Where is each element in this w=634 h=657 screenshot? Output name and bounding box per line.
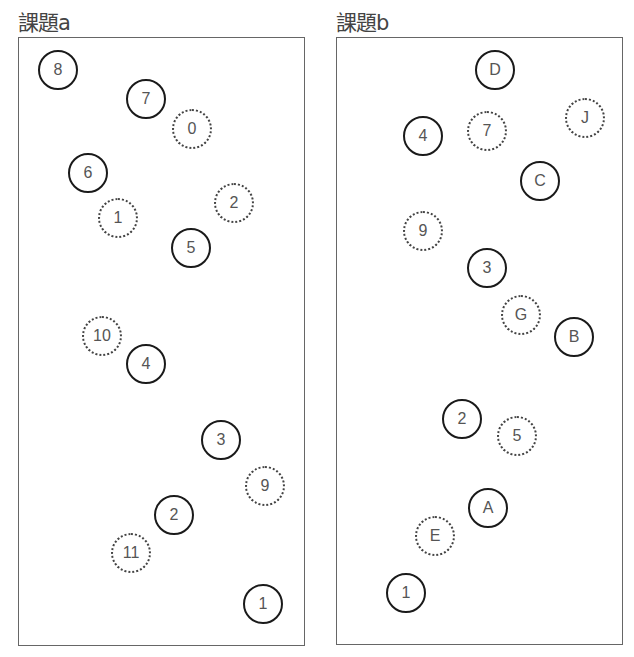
distractor-circle[interactable]: 9: [403, 211, 443, 251]
target-circle[interactable]: A: [468, 488, 508, 528]
target-circle[interactable]: 8: [38, 50, 78, 90]
target-circle[interactable]: 2: [442, 399, 482, 439]
distractor-circle[interactable]: 11: [111, 533, 151, 573]
panel-title: 課題a: [18, 6, 70, 36]
target-circle[interactable]: D: [475, 50, 515, 90]
target-circle[interactable]: 4: [403, 116, 443, 156]
distractor-circle[interactable]: 9: [245, 466, 285, 506]
target-circle[interactable]: 6: [68, 153, 108, 193]
target-circle[interactable]: B: [554, 317, 594, 357]
target-circle[interactable]: 4: [126, 344, 166, 384]
target-circle[interactable]: 3: [467, 248, 507, 288]
distractor-circle[interactable]: 0: [172, 109, 212, 149]
target-circle[interactable]: C: [520, 161, 560, 201]
target-circle[interactable]: 1: [243, 584, 283, 624]
panel-title: 課題b: [336, 6, 388, 36]
distractor-circle[interactable]: 1: [98, 198, 138, 238]
distractor-circle[interactable]: 10: [82, 316, 122, 356]
target-circle[interactable]: 1: [386, 573, 426, 613]
panel-a-box: [18, 37, 305, 646]
distractor-circle[interactable]: 7: [467, 111, 507, 151]
distractor-circle[interactable]: G: [501, 295, 541, 335]
distractor-circle[interactable]: 5: [497, 416, 537, 456]
target-circle[interactable]: 7: [126, 79, 166, 119]
distractor-circle[interactable]: J: [565, 98, 605, 138]
target-circle[interactable]: 3: [201, 420, 241, 460]
distractor-circle[interactable]: 2: [214, 183, 254, 223]
target-circle[interactable]: 2: [154, 495, 194, 535]
distractor-circle[interactable]: E: [415, 516, 455, 556]
target-circle[interactable]: 5: [171, 228, 211, 268]
